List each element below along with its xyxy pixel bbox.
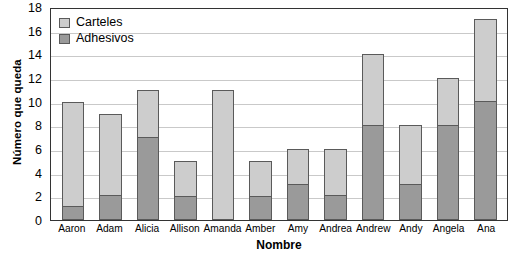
chart-legend: Carteles Adhesivos (59, 15, 134, 47)
segment-adhesivos (400, 184, 421, 219)
x-tick-andrew: Andrew (354, 223, 392, 234)
bar-slot (392, 9, 430, 220)
x-tick-allison: Allison (166, 223, 204, 234)
x-tick-amy: Amy (279, 223, 317, 234)
bar-allison (174, 161, 197, 220)
y-tick-16: 16 (28, 26, 42, 38)
y-tick-14: 14 (28, 49, 42, 61)
y-tick-0: 0 (35, 215, 42, 227)
legend-item-adhesivos: Adhesivos (59, 31, 134, 46)
dark-gray-swatch (59, 34, 70, 44)
legend-label-carteles: Carteles (76, 15, 123, 30)
bar-aaron (62, 102, 85, 220)
bar-slot (129, 9, 167, 220)
y-tick-8: 8 (35, 120, 42, 132)
bar-andy (399, 125, 422, 220)
segment-adhesivos (100, 195, 121, 219)
x-axis-title: Nombre (50, 238, 508, 252)
bar-andrew (362, 54, 385, 220)
segment-adhesivos (475, 101, 496, 219)
y-tick-12: 12 (28, 73, 42, 85)
bar-slot (429, 9, 467, 220)
x-tick-andy: Andy (392, 223, 430, 234)
bar-angela (437, 78, 460, 220)
bar-slot (167, 9, 205, 220)
segment-carteles (175, 162, 196, 196)
y-tick-18: 18 (28, 2, 42, 14)
x-tick-alicia: Alicia (128, 223, 166, 234)
bar-slot (242, 9, 280, 220)
y-tick-6: 6 (35, 144, 42, 156)
segment-adhesivos (363, 125, 384, 219)
segment-carteles (288, 150, 309, 184)
x-axis-tick-labels: AaronAdamAliciaAllisonAmandaAmberAmyAndr… (50, 223, 508, 234)
x-tick-amber: Amber (242, 223, 280, 234)
plot-area: Carteles Adhesivos (50, 8, 508, 221)
segment-carteles (400, 126, 421, 183)
y-tick-10: 10 (28, 97, 42, 109)
legend-label-adhesivos: Adhesivos (76, 31, 134, 46)
x-tick-adam: Adam (91, 223, 129, 234)
bar-slot (317, 9, 355, 220)
legend-item-carteles: Carteles (59, 15, 134, 30)
segment-carteles (363, 55, 384, 125)
segment-adhesivos (288, 184, 309, 219)
y-tick-4: 4 (35, 168, 42, 180)
segment-carteles (63, 103, 84, 207)
x-tick-andrea: Andrea (317, 223, 355, 234)
bar-slot (279, 9, 317, 220)
y-axis-tick-labels: 181614121086420 (0, 0, 46, 229)
segment-carteles (475, 20, 496, 102)
segment-carteles (250, 162, 271, 196)
bar-alicia (137, 90, 160, 220)
bar-amanda (212, 90, 235, 220)
segment-adhesivos (250, 196, 271, 219)
segment-adhesivos (438, 125, 459, 219)
light-gray-swatch (59, 18, 70, 28)
bar-slot (204, 9, 242, 220)
x-tick-aaron: Aaron (53, 223, 91, 234)
segment-carteles (100, 115, 121, 196)
segment-adhesivos (175, 196, 196, 219)
bar-andrea (324, 149, 347, 220)
bar-slot (354, 9, 392, 220)
y-tick-2: 2 (35, 191, 42, 203)
bar-adam (99, 114, 122, 221)
segment-carteles (138, 91, 159, 137)
stacked-bar-chart: Número que queda 181614121086420 Cartele… (0, 0, 516, 256)
segment-adhesivos (63, 206, 84, 219)
x-tick-angela: Angela (430, 223, 468, 234)
x-tick-ana: Ana (467, 223, 505, 234)
segment-carteles (213, 91, 234, 219)
bar-amber (249, 161, 272, 220)
bar-ana (474, 19, 497, 220)
bar-slot (467, 9, 505, 220)
segment-adhesivos (138, 137, 159, 219)
bar-amy (287, 149, 310, 220)
segment-adhesivos (325, 195, 346, 219)
segment-carteles (325, 150, 346, 195)
x-tick-amanda: Amanda (204, 223, 242, 234)
segment-carteles (438, 79, 459, 125)
